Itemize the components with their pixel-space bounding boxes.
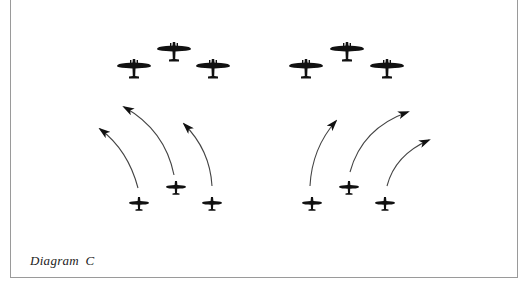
bomber-icon [157,42,191,62]
fighter-icon [129,197,149,211]
fighter-icon [202,197,222,211]
flight-path-arrow-icon [124,107,174,175]
flight-path-arrow-icon [387,140,429,186]
fighter-icon [302,197,322,211]
bomber-icon [330,42,364,62]
formation-right [289,42,429,211]
bomber-icon [370,59,404,79]
flight-path-arrow-icon [310,121,336,186]
flight-path-arrow-icon [350,112,408,172]
bomber-icon [196,59,230,79]
fighter-icon [375,197,395,211]
fighter-icon [166,181,186,195]
bomber-icon [117,59,151,79]
formation-diagram [0,0,527,290]
formation-left [100,42,230,211]
flight-path-arrow-icon [184,124,212,186]
bomber-icon [289,59,323,79]
diagram-caption: Diagram C [30,253,95,269]
flight-path-arrow-icon [100,129,138,188]
fighter-icon [339,181,359,195]
